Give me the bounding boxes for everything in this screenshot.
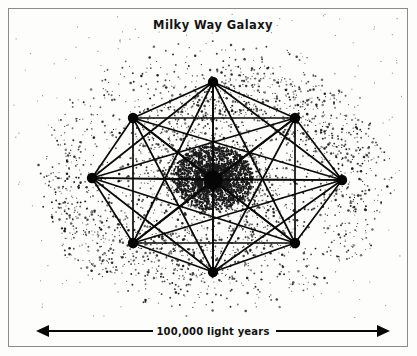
network-node-n-upper-right (290, 113, 300, 123)
starfield (13, 14, 402, 318)
figure-page: 100,000 light years Milky Way Galaxy (0, 0, 417, 356)
network-edge (92, 118, 295, 178)
network-edge (92, 118, 133, 178)
scale-arrowhead-right (377, 325, 390, 337)
network-node-center (204, 171, 223, 190)
network-node-n-lower-left (128, 238, 138, 248)
scale-label: 100,000 light years (156, 326, 269, 337)
network-edge (92, 178, 133, 243)
network-node-n-top (208, 77, 218, 87)
network-node-n-bottom (208, 267, 218, 277)
galaxy-diagram: 100,000 light years Milky Way Galaxy (0, 0, 417, 356)
network-edge (295, 180, 342, 243)
scale-arrowhead-left (36, 325, 49, 337)
network-node-n-upper-left (128, 113, 138, 123)
network-node-n-right (337, 175, 347, 185)
scale-bar: 100,000 light years (36, 325, 390, 337)
figure-title: Milky Way Galaxy (153, 18, 273, 32)
network-node-n-left (87, 173, 97, 183)
network-node-n-lower-right (290, 238, 300, 248)
